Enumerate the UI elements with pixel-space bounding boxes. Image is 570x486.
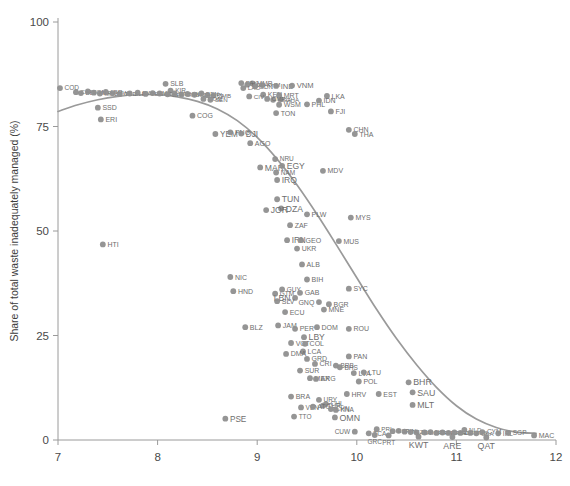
data-point-ROU [346,326,352,332]
data-point-UKR [294,246,300,252]
data-label-HND: HND [238,288,253,295]
data-point-LBR [103,89,109,95]
chart-canvas: 0255075100789101112Share of total waste … [0,0,570,486]
data-label-EST: EST [383,391,397,398]
data-point-DMA [283,351,289,357]
data-label-HRV: HRV [351,391,366,398]
data-point-IRN [284,237,290,243]
data-point-KOR [422,430,428,436]
data-point-SLE [127,91,133,97]
data-point-CRI [312,361,318,367]
data-point-LVA [351,370,357,376]
data-point-ALB [299,262,305,268]
data-point-BEN [199,91,205,97]
data-point-IRQ [274,177,280,183]
data-label-QAT: QAT [478,441,496,451]
x-tick-label-8: 8 [154,451,160,463]
data-label-JOR: JOR [271,205,288,215]
data-point-CUW [352,429,358,435]
data-label-THA: THA [359,131,373,138]
data-label-DMA: DMA [291,350,307,357]
data-point-PHL [304,101,310,107]
data-point-NZL [428,429,434,435]
data-point-OMN [332,415,338,421]
data-point-TCD [117,91,123,97]
data-point-IRL [495,430,501,436]
data-label-NIC: NIC [235,274,247,281]
data-point-SEN [207,97,213,103]
data-label-ARE: ARE [443,441,461,451]
data-point-BHS [337,364,343,370]
data-label-MLT: MLT [417,400,435,410]
data-label-ARG: ARG [321,375,336,382]
data-point-KNA [333,407,339,413]
data-label-SUR: SUR [305,367,320,374]
y-tick-label-25: 25 [36,330,49,342]
data-label-IDN: IDN [324,97,336,104]
data-point-QAT [483,435,489,441]
data-point-GAB [297,290,303,296]
data-label-DOM: DOM [322,324,339,331]
data-point-CZE [408,429,414,435]
data-label-AGO: AGO [255,140,271,147]
data-point-ARE [450,434,456,440]
data-point-ARG [313,376,319,382]
data-label-COL: COL [310,340,325,347]
data-point-MAR [257,165,263,171]
x-tick-label-12: 12 [550,451,563,463]
data-label-MAC: MAC [539,432,555,439]
data-point-LAO [240,85,246,91]
data-point-WSM [276,102,282,108]
data-point-MOZ [97,91,103,97]
x-tick-label-10: 10 [350,451,363,463]
data-point-VNM [289,83,295,89]
data-point-ECU [282,309,288,315]
data-label-BLZ: BLZ [250,324,264,331]
data-label-GRC: GRC [368,438,383,445]
y-tick-label-100: 100 [30,16,49,28]
data-point-CHN [346,127,352,133]
data-label-MNE: MNE [329,306,345,313]
data-point-KWT [416,434,422,440]
y-tick-label-0: 0 [43,434,49,446]
data-point-MUS [336,238,342,244]
data-label-BRA: BRA [296,393,311,400]
data-point-BIH [304,277,310,283]
data-point-BHR [406,379,412,385]
y-tick-label-75: 75 [36,121,49,133]
data-point-USA [473,430,479,436]
data-point-ETH [172,91,178,97]
data-label-CRI: CRI [320,360,332,367]
data-point-FRA [440,430,446,436]
data-point-ITA [402,429,408,435]
x-tick-label-7: 7 [55,451,61,463]
data-label-LCA: LCA [308,348,322,355]
data-point-SYC [346,286,352,292]
data-point-TON [273,110,279,116]
data-label-ERI: ERI [105,116,117,123]
data-label-DJI: DJI [246,130,258,139]
data-point-YEM [212,131,218,137]
data-point-TZA [192,92,198,98]
data-point-GNQ [316,299,322,305]
data-point-PER [292,326,298,332]
data-point-PNG [227,129,233,135]
data-label-SLV: SLV [282,298,295,305]
data-label-BHS: BHS [344,364,358,371]
data-point-MLT [410,402,416,408]
data-point-MEX [307,375,313,381]
data-label-SYC: SYC [353,285,367,292]
data-point-NRU [272,156,278,162]
data-label-GAB: GAB [305,289,320,296]
data-point-VEN [298,405,304,411]
data-point-GUY [279,287,285,293]
data-label-ROU: ROU [353,325,369,332]
data-label-SEN: SEN [215,96,228,103]
data-point-HND [230,288,236,294]
data-point-IDN [316,98,322,104]
data-label-IRQ: IRQ [282,175,298,185]
data-label-GNQ: GNQ [298,299,315,307]
data-point-TGO [143,91,149,97]
data-label-EGY: EGY [287,161,305,171]
data-point-VCT [288,340,294,346]
